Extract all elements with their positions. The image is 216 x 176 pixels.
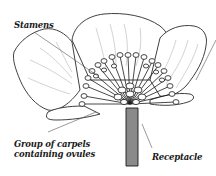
label-carpels-line2: containing ovules bbox=[14, 149, 95, 159]
label-carpels-line1: Group of carpels bbox=[14, 139, 90, 149]
label-receptacle: Receptacle bbox=[152, 152, 202, 162]
flower-diagram: Stamens Group of carpels containing ovul… bbox=[0, 0, 216, 176]
stem bbox=[126, 108, 138, 166]
receptacle-leader bbox=[142, 124, 152, 148]
label-stamens: Stamens bbox=[14, 20, 54, 30]
